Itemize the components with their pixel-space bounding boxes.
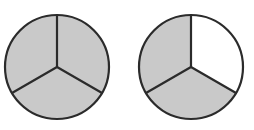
left-circle: [5, 15, 109, 119]
fraction-circles-figure: [0, 0, 254, 130]
circles-canvas: [0, 0, 254, 130]
right-circle: [139, 15, 243, 119]
